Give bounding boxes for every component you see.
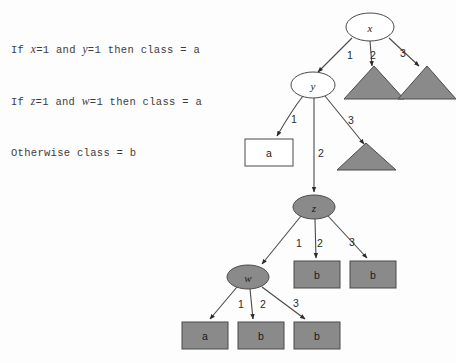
- leaf-box-w3[interactable]: b: [294, 322, 340, 349]
- node-y[interactable]: y: [291, 72, 335, 98]
- edge-label-y-2: 2: [318, 147, 324, 159]
- leaf-box-y1-label: a: [266, 147, 272, 159]
- leaf-box-z2[interactable]: b: [294, 261, 340, 288]
- node-w[interactable]: w: [227, 265, 269, 289]
- leaf-box-z3-label: b: [370, 269, 376, 281]
- edge-label-w-1: 1: [238, 298, 244, 310]
- edge-z-to-box-b3: [328, 216, 367, 258]
- edge-z-to-box-b2: [315, 219, 316, 258]
- node-y-label: y: [310, 80, 316, 92]
- diagram-canvas: If x=1 and y=1 then class = a If z=1 and…: [0, 0, 456, 363]
- leaf-box-w3-label: b: [314, 330, 320, 342]
- leaf-box-w2[interactable]: b: [238, 322, 284, 349]
- decision-tree-svg: 1 2 3 1 2 3 1 2 3 1 2 3: [0, 0, 456, 363]
- edge-w-to-box-b2: [250, 289, 253, 319]
- edge-group-z: 1 2 3: [262, 216, 367, 264]
- node-z[interactable]: z: [293, 195, 335, 219]
- edge-y-to-box-a: [277, 96, 303, 136]
- edge-label-z-1: 1: [296, 237, 302, 249]
- edge-label-y-1: 1: [291, 113, 297, 125]
- edge-label-w-2: 2: [260, 298, 266, 310]
- node-x[interactable]: x: [346, 13, 394, 41]
- edge-label-x-3: 3: [400, 47, 406, 59]
- edge-label-y-3: 3: [348, 114, 354, 126]
- node-z-label: z: [311, 202, 317, 214]
- subtree-triangle-y3[interactable]: [337, 143, 396, 170]
- node-w-label: w: [244, 272, 252, 284]
- node-x-label: x: [367, 22, 373, 34]
- edge-label-z-3: 3: [349, 236, 355, 248]
- leaf-box-w1[interactable]: a: [182, 322, 228, 349]
- edge-label-w-3: 3: [293, 297, 299, 309]
- edge-label-z-2: 2: [317, 237, 323, 249]
- leaf-box-z3[interactable]: b: [350, 261, 396, 288]
- leaf-box-w2-label: b: [258, 330, 264, 342]
- edge-label-x-1: 1: [347, 49, 353, 61]
- edge-group-w: 1 2 3: [210, 287, 305, 319]
- edge-label-x-2: 2: [370, 49, 376, 61]
- leaf-box-y1[interactable]: a: [245, 139, 293, 166]
- edge-w-to-box-a: [210, 287, 237, 319]
- subtree-triangle-x2[interactable]: [344, 66, 404, 99]
- leaf-box-w1-label: a: [202, 330, 208, 342]
- edge-group-x: 1 2 3: [318, 38, 419, 72]
- edge-y-to-triangle3: [325, 96, 364, 144]
- subtree-triangle-x3[interactable]: [398, 66, 456, 99]
- leaf-box-z2-label: b: [314, 269, 320, 281]
